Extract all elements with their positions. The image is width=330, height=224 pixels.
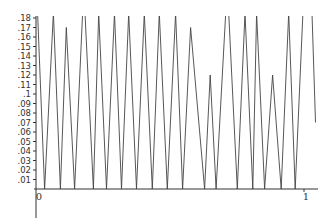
x-tick-label: 1 <box>303 191 309 202</box>
y-tick-label: .03 <box>17 156 31 166</box>
y-tick-label: .05 <box>17 137 31 147</box>
y-tick-label: .16 <box>17 32 31 42</box>
y-tick-label: .18 <box>17 13 31 23</box>
y-axis-ticks: .01.02.03.04.05.06.07.08.09.1.11.12.13.1… <box>17 13 36 185</box>
y-tick-label: .02 <box>17 165 31 175</box>
y-tick-label: .01 <box>17 175 31 185</box>
x-axis-ticks: 01 <box>36 189 309 202</box>
y-tick-label: .1 <box>23 89 31 99</box>
data-line <box>38 13 316 189</box>
y-tick-label: .13 <box>17 61 31 71</box>
y-tick-label: .04 <box>17 146 31 156</box>
y-tick-label: .06 <box>17 127 31 137</box>
y-tick-label: .12 <box>17 70 31 80</box>
x-tick-label: 0 <box>36 191 42 202</box>
y-tick-label: .17 <box>17 23 31 33</box>
y-tick-label: .15 <box>17 42 31 52</box>
y-tick-label: .09 <box>17 99 31 109</box>
y-tick-label: .08 <box>17 108 31 118</box>
line-chart: .01.02.03.04.05.06.07.08.09.1.11.12.13.1… <box>0 0 330 224</box>
y-tick-label: .11 <box>17 80 31 90</box>
y-tick-label: .07 <box>17 118 31 128</box>
y-tick-label: .14 <box>17 51 31 61</box>
